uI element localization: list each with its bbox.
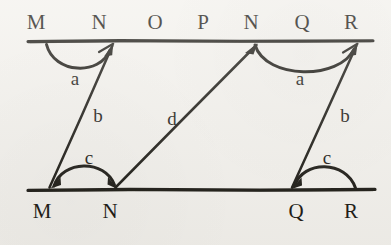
angle-arc-c-left: [54, 166, 115, 186]
side-label-b-left: b: [93, 106, 103, 125]
vertex-label-bottom-r: R: [344, 201, 358, 222]
angle-label-c-right: c: [323, 148, 331, 167]
vertex-label-top-r: R: [344, 12, 358, 33]
angle-label-a-left: a: [71, 69, 79, 88]
side-label-b-right: b: [340, 106, 350, 125]
vertex-label-top-p: P: [197, 12, 209, 33]
vertex-label-bottom-n: N: [102, 201, 117, 222]
upper-parallel-line-texture: [30, 42, 371, 43]
lower-parallel-line-texture: [31, 191, 373, 192]
angle-arc-a-left: [47, 45, 111, 69]
angle-label-a-right: a: [296, 69, 304, 88]
vertex-label-top-q: Q: [294, 12, 309, 33]
middle-transversal-line: [116, 45, 257, 188]
vertex-label-bottom-q: Q: [288, 201, 303, 222]
vertex-label-bottom-m: M: [33, 201, 52, 222]
angle-arc-a-right: [255, 45, 354, 72]
side-label-d-middle: d: [167, 109, 177, 128]
angle-label-c-left: c: [85, 148, 93, 167]
vertex-label-top-n-left: N: [91, 12, 106, 33]
geometry-diagram: M N O P N Q R M N Q R a a c c b d b: [0, 0, 391, 245]
vertex-label-top-m: M: [27, 12, 46, 33]
vertex-label-top-n-right: N: [243, 12, 258, 33]
figure-canvas: [0, 0, 391, 245]
angle-arc-c-right: [295, 167, 356, 188]
upper-parallel-line: [28, 41, 373, 42]
vertex-label-top-o: O: [147, 12, 162, 33]
